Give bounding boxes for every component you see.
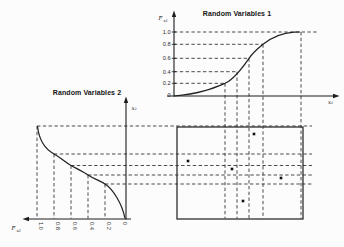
rv2-plabel-main: F: [11, 225, 16, 231]
rv1-ytick: 1.0: [163, 29, 171, 35]
rv2-tick: 1.0: [38, 222, 44, 230]
sample-point: [253, 133, 256, 136]
sample-point: [242, 200, 245, 203]
rv2-title: Random Variables 2: [53, 89, 121, 96]
rv2-cdf-curve: [38, 126, 126, 219]
rv1-y-ticklabels: 1.0 0.8 0.6 0.4 0.2 0: [163, 29, 171, 98]
rv2-prob-axis-label: F x2: [11, 225, 22, 233]
rv2-tick: 0: [122, 222, 128, 225]
rv1-ytick: 0.6: [163, 55, 171, 61]
rv1-ytick: 0.8: [163, 41, 171, 47]
rv1-x-axis-label: x₁: [328, 99, 333, 105]
rv1-ytick: 0.4: [163, 69, 171, 75]
rv2-prob-axis-arrow-icon: [23, 217, 30, 221]
rv2-plabel-sub: x2: [17, 229, 22, 233]
sample-point: [187, 160, 190, 163]
sample-space-box: [177, 127, 303, 219]
rv2-tick: 0.4: [89, 222, 95, 230]
rv1-title: Random Variables 1: [203, 10, 271, 17]
rv1-y-axis-arrow-icon: [172, 11, 176, 18]
rv1-ytick: 0: [167, 92, 170, 98]
lhs-sampling-figure: Random Variables 1 1.0 0.8 0.6 0.4 0.2 0…: [0, 0, 344, 247]
rv2-tick: 0.6: [72, 222, 78, 230]
sample-points-layer: [187, 133, 283, 203]
rv1-ylabel-sub: x1: [164, 19, 168, 23]
sample-point: [231, 168, 234, 171]
rv2-tick: 0.2: [106, 222, 112, 230]
sample-point: [280, 177, 283, 180]
rv1-ytick: 0.2: [163, 80, 171, 86]
figure-svg: Random Variables 1 1.0 0.8 0.6 0.4 0.2 0…: [0, 0, 344, 247]
rv2-value-axis-arrow-icon: [124, 97, 128, 104]
rv1-ylabel-main: F: [158, 15, 163, 21]
rv2-value-axis-label: x₂: [132, 105, 137, 111]
rv2-chart: Random Variables 2 1.0 0.8 0.6 0.4 0.2 0…: [11, 89, 137, 233]
rv2-ticklabels: 1.0 0.8 0.6 0.4 0.2 0: [38, 222, 128, 230]
rv1-chart: Random Variables 1 1.0 0.8 0.6 0.4 0.2 0…: [158, 10, 340, 105]
rv1-x-axis-arrow-icon: [333, 94, 340, 98]
rv2-tick: 0.8: [55, 222, 61, 230]
rv1-y-axis-label: F x1: [158, 15, 168, 23]
